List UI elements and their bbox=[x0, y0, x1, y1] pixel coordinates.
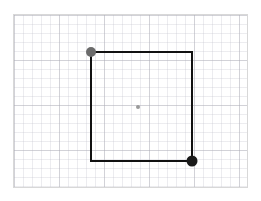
resize-handle-top-left[interactable] bbox=[86, 47, 96, 57]
rectangle-shape[interactable] bbox=[91, 52, 192, 161]
shape-canvas-svg[interactable] bbox=[14, 15, 247, 187]
app-root bbox=[0, 0, 261, 201]
drawing-canvas[interactable] bbox=[13, 14, 248, 188]
resize-handle-bottom-right[interactable] bbox=[187, 156, 198, 167]
shape-layer[interactable] bbox=[14, 15, 247, 187]
shape-center-marker bbox=[136, 105, 140, 109]
